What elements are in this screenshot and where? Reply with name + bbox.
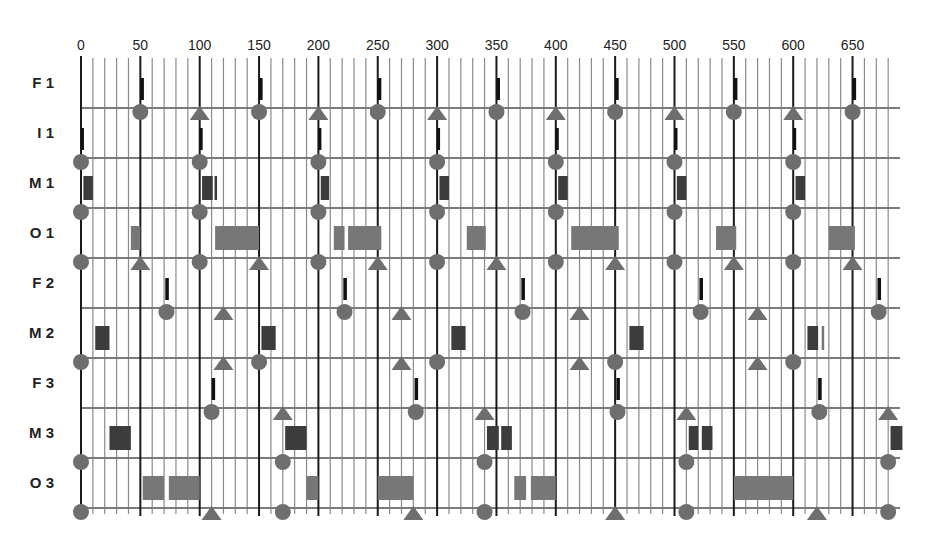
activity-bar bbox=[109, 426, 130, 450]
activity-bar bbox=[334, 226, 345, 250]
circle-marker-icon bbox=[607, 104, 623, 120]
activity-bar bbox=[807, 326, 818, 350]
activity-bar bbox=[877, 278, 881, 300]
tick-label: 450 bbox=[603, 37, 627, 53]
activity-bar bbox=[131, 226, 140, 250]
circle-marker-icon bbox=[880, 504, 896, 520]
activity-bar bbox=[615, 78, 619, 100]
circle-marker-icon bbox=[548, 204, 564, 220]
activity-bar bbox=[818, 378, 822, 400]
tick-label: 200 bbox=[307, 37, 331, 53]
circle-marker-icon bbox=[515, 304, 531, 320]
circle-marker-icon bbox=[275, 454, 291, 470]
circle-marker-icon bbox=[429, 254, 445, 270]
activity-bar bbox=[202, 176, 213, 200]
activity-bar bbox=[165, 278, 169, 300]
circle-marker-icon bbox=[310, 254, 326, 270]
circle-marker-icon bbox=[73, 504, 89, 520]
circle-marker-icon bbox=[785, 354, 801, 370]
circle-marker-icon bbox=[693, 304, 709, 320]
row-label: M 3 bbox=[29, 424, 54, 441]
row-label: M 2 bbox=[29, 324, 54, 341]
circle-marker-icon bbox=[429, 354, 445, 370]
activity-bar bbox=[675, 128, 678, 150]
circle-marker-icon bbox=[337, 304, 353, 320]
activity-bar bbox=[521, 278, 525, 300]
activity-bar bbox=[501, 426, 512, 450]
activity-bar bbox=[321, 176, 329, 200]
tick-label: 350 bbox=[485, 37, 509, 53]
circle-marker-icon bbox=[880, 454, 896, 470]
activity-bar bbox=[616, 378, 620, 400]
tick-label: 150 bbox=[247, 37, 271, 53]
circle-marker-icon bbox=[310, 204, 326, 220]
circle-marker-icon bbox=[73, 454, 89, 470]
circle-marker-icon bbox=[73, 204, 89, 220]
circle-marker-icon bbox=[370, 104, 386, 120]
tick-label: 0 bbox=[77, 37, 85, 53]
row-label: I 1 bbox=[37, 124, 54, 141]
circle-marker-icon bbox=[192, 154, 208, 170]
row-labels: F 1I 1M 1O 1F 2M 2F 3M 3O 3 bbox=[29, 74, 54, 491]
activity-bar bbox=[285, 426, 306, 450]
tick-label: 100 bbox=[188, 37, 212, 53]
activity-bar bbox=[853, 78, 857, 100]
activity-bar bbox=[140, 78, 144, 100]
activity-bar bbox=[716, 226, 736, 250]
circle-marker-icon bbox=[251, 104, 267, 120]
row-label: M 1 bbox=[29, 174, 54, 191]
activity-bar bbox=[415, 378, 419, 400]
activity-bar bbox=[571, 226, 618, 250]
circle-marker-icon bbox=[192, 254, 208, 270]
circle-marker-icon bbox=[275, 504, 291, 520]
activity-bar bbox=[891, 426, 903, 450]
circle-marker-icon bbox=[811, 404, 827, 420]
activity-bar bbox=[95, 326, 109, 350]
activity-bar bbox=[261, 326, 275, 350]
circle-marker-icon bbox=[785, 154, 801, 170]
activity-bar bbox=[699, 278, 703, 300]
major-gridlines bbox=[81, 56, 853, 516]
circle-marker-icon bbox=[667, 254, 683, 270]
activity-bar bbox=[307, 476, 319, 500]
x-axis-tick-labels: 050100150200250300350400450500550600650 bbox=[77, 37, 864, 53]
activity-bar bbox=[467, 226, 486, 250]
activity-bar bbox=[437, 128, 440, 150]
activity-bar bbox=[143, 476, 164, 500]
activity-bar bbox=[496, 78, 500, 100]
row-label: F 1 bbox=[32, 74, 54, 91]
activity-bar bbox=[343, 278, 347, 300]
activity-bar bbox=[215, 176, 218, 200]
circle-marker-icon bbox=[132, 104, 148, 120]
circle-marker-icon bbox=[785, 204, 801, 220]
circle-marker-icon bbox=[408, 404, 424, 420]
tick-label: 650 bbox=[841, 37, 865, 53]
circle-marker-icon bbox=[310, 154, 326, 170]
activity-bars bbox=[81, 78, 902, 500]
circle-marker-icon bbox=[158, 304, 174, 320]
circle-marker-icon bbox=[548, 154, 564, 170]
row-label: O 1 bbox=[30, 224, 54, 241]
circle-marker-icon bbox=[845, 104, 861, 120]
activity-bar bbox=[689, 426, 698, 450]
circle-marker-icon bbox=[251, 354, 267, 370]
circle-marker-icon bbox=[610, 404, 626, 420]
activity-bar bbox=[451, 326, 465, 350]
tick-label: 550 bbox=[722, 37, 746, 53]
activity-bar bbox=[487, 426, 499, 450]
circle-marker-icon bbox=[73, 354, 89, 370]
activity-bar bbox=[212, 378, 216, 400]
tick-label: 250 bbox=[366, 37, 390, 53]
circle-marker-icon bbox=[678, 454, 694, 470]
tick-label: 300 bbox=[425, 37, 449, 53]
activity-bar bbox=[702, 426, 713, 450]
activity-bar bbox=[348, 226, 381, 250]
activity-bar bbox=[796, 176, 805, 200]
activity-bar bbox=[629, 326, 643, 350]
tick-label: 500 bbox=[663, 37, 687, 53]
activity-bar bbox=[259, 78, 263, 100]
circle-marker-icon bbox=[871, 304, 887, 320]
activity-bar bbox=[829, 226, 855, 250]
activity-bar bbox=[81, 128, 84, 150]
activity-bar bbox=[734, 78, 738, 100]
